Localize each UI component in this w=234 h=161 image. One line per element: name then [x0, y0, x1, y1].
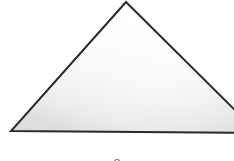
figure-container: o — [0, 0, 234, 161]
clipped-caption-text: o — [0, 153, 234, 161]
triangle-shading-overlay — [11, 2, 234, 133]
triangle-figure — [0, 0, 234, 161]
